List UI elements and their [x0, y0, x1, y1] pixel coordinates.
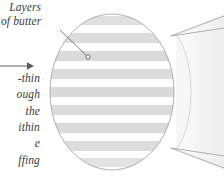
- cylinder-body: [176, 14, 224, 170]
- body-text-line2: ough: [0, 86, 40, 102]
- callout-label-line2: of butter: [1, 15, 41, 29]
- pastry-layers-diagram: Layers of butter -thin ough the ithin e …: [0, 0, 224, 182]
- callout-label: Layers of butter: [9, 1, 41, 28]
- callout-label-line1: Layers: [9, 1, 41, 15]
- body-text-line3: the: [0, 103, 40, 119]
- body-text-line6: ffing: [0, 152, 40, 168]
- cross-section-circle: [40, 14, 190, 170]
- body-text-block: -thin ough the ithin e ffing: [0, 70, 40, 168]
- pointer-arrow: [0, 62, 34, 70]
- body-text-line4: ithin: [0, 119, 40, 135]
- butter-layer-bands: [40, 16, 190, 167]
- body-text-line1: -thin: [0, 70, 40, 86]
- body-text-line5: e: [0, 135, 40, 151]
